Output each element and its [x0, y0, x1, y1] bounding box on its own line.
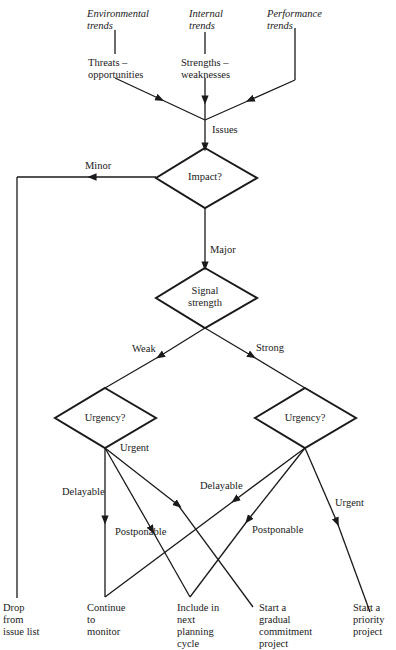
urgent-left-label: Urgent	[120, 442, 149, 454]
outcome-drop-from-issue-list: Drop from issue list	[3, 602, 39, 638]
outcome-start-priority-project: Start a priority project	[353, 602, 385, 638]
env-line1: Environmental	[87, 8, 149, 20]
strengths-line2: weaknesses	[181, 69, 230, 81]
threats-line2: opportunities	[88, 69, 143, 81]
internal-trends-label: Internal trends	[189, 8, 223, 32]
signal-line1: Signal	[165, 285, 245, 297]
strengths-weaknesses-label: Strengths – weaknesses	[181, 57, 230, 81]
outcome-line: Drop	[3, 602, 39, 614]
outcome-include-in-next-planning-cycle: Include in next planning cycle	[177, 602, 219, 650]
urgency-right-decision: Urgency?	[265, 412, 345, 424]
outcome-line: Include in	[177, 602, 219, 614]
environmental-trends-label: Environmental trends	[87, 8, 149, 32]
outcome-line: issue list	[3, 626, 39, 638]
weak-label: Weak	[132, 343, 156, 355]
outcome-line: Continue	[87, 602, 126, 614]
major-label: Major	[210, 244, 236, 256]
impact-decision: Impact?	[165, 171, 245, 183]
outcome-line: project	[259, 638, 312, 650]
env-line2: trends	[87, 20, 149, 32]
delayable-right-label: Delayable	[200, 480, 243, 492]
outcome-line: to	[87, 614, 126, 626]
threats-line1: Threats –	[88, 57, 143, 69]
perf-line2: trends	[267, 20, 322, 32]
delayable-left-label: Delayable	[62, 486, 105, 498]
outcome-line: next	[177, 614, 219, 626]
outcome-line: priority	[353, 614, 385, 626]
minor-label: Minor	[85, 160, 111, 172]
outcome-line: from	[3, 614, 39, 626]
int-line1: Internal	[189, 8, 223, 20]
outcome-line: Start a	[259, 602, 312, 614]
urgent-right-label: Urgent	[335, 497, 364, 509]
outcome-line: gradual	[259, 614, 312, 626]
strong-label: Strong	[256, 342, 284, 354]
outcome-continue-to-monitor: Continue to monitor	[87, 602, 126, 638]
strengths-line1: Strengths –	[181, 57, 230, 69]
signal-strength-decision: Signal strength	[165, 285, 245, 309]
outcome-line: project	[353, 626, 385, 638]
issues-label: Issues	[212, 124, 238, 136]
signal-line2: strength	[165, 297, 245, 309]
outcome-line: monitor	[87, 626, 126, 638]
outcome-line: Start a	[353, 602, 385, 614]
threats-opportunities-label: Threats – opportunities	[88, 57, 143, 81]
postponable-right-label: Postponable	[252, 524, 303, 536]
outcome-line: commitment	[259, 626, 312, 638]
urgency-left-decision: Urgency?	[65, 412, 145, 424]
int-line2: trends	[189, 20, 223, 32]
outcome-line: planning	[177, 626, 219, 638]
perf-line1: Performance	[267, 8, 322, 20]
outcome-start-gradual-commitment-project: Start a gradual commitment project	[259, 602, 312, 650]
outcome-line: cycle	[177, 638, 219, 650]
postponable-left-label: Postponable	[115, 526, 166, 538]
performance-trends-label: Performance trends	[267, 8, 322, 32]
